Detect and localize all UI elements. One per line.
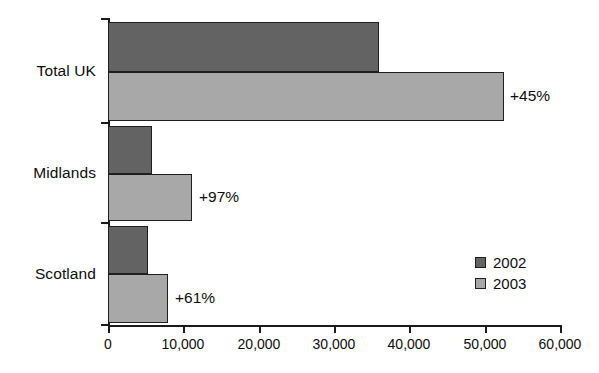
bar-total-uk-2002 — [108, 22, 379, 72]
category-label-midlands: Midlands — [0, 165, 96, 181]
annotation-total-uk: +45% — [510, 88, 550, 104]
category-label-total-uk: Total UK — [0, 63, 96, 79]
x-tick-label-20000: 20,000 — [238, 337, 281, 351]
x-tick-label-40000: 40,000 — [388, 337, 431, 351]
x-tick-40000 — [409, 325, 411, 333]
x-tick-50000 — [485, 325, 487, 333]
bar-chart: Total UK Midlands Scotland 0 10,000 20,0… — [0, 0, 599, 373]
bar-scotland-2002 — [108, 226, 148, 274]
x-tick-label-0: 0 — [104, 337, 112, 351]
x-tick-label-10000: 10,000 — [162, 337, 205, 351]
category-tick-total-uk-midlands — [101, 122, 109, 124]
x-tick-10000 — [183, 325, 185, 333]
legend-swatch-2003-icon — [475, 278, 486, 289]
legend: 2002 2003 — [475, 252, 526, 294]
bar-midlands-2002 — [108, 126, 152, 174]
bar-scotland-2003 — [108, 274, 168, 323]
x-tick-30000 — [334, 325, 336, 333]
legend-label-2003: 2003 — [493, 276, 526, 291]
x-tick-label-60000: 60,000 — [539, 337, 582, 351]
x-tick-label-30000: 30,000 — [313, 337, 356, 351]
x-tick-20000 — [259, 325, 261, 333]
bar-midlands-2003 — [108, 174, 192, 221]
category-tick-midlands-scotland — [101, 222, 109, 224]
legend-item-2002: 2002 — [475, 252, 526, 273]
legend-item-2003: 2003 — [475, 273, 526, 294]
category-label-scotland: Scotland — [0, 266, 96, 282]
x-tick-0 — [108, 325, 110, 333]
x-tick-60000 — [560, 325, 562, 333]
legend-swatch-2002-icon — [475, 257, 486, 268]
annotation-midlands: +97% — [199, 189, 239, 205]
x-tick-label-50000: 50,000 — [464, 337, 507, 351]
category-tick-top — [101, 18, 109, 20]
bar-total-uk-2003 — [108, 72, 504, 121]
legend-label-2002: 2002 — [493, 255, 526, 270]
annotation-scotland: +61% — [175, 290, 215, 306]
